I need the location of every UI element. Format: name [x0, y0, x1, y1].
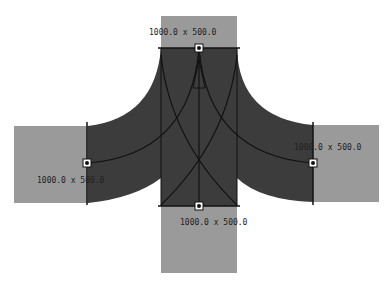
- junction-area[interactable]: [88, 48, 313, 206]
- north-handle[interactable]: [195, 44, 203, 52]
- east-road[interactable]: [313, 125, 379, 202]
- south-road[interactable]: [161, 206, 237, 273]
- east-road-label: 1000.0 x 500.0: [294, 143, 362, 152]
- west-road-label: 1000.0 x 500.0: [37, 176, 105, 185]
- intersection-diagram: 1000.0 x 500.0 1000.0 x 500.0 1000.0 x 5…: [0, 0, 391, 288]
- east-handle[interactable]: [309, 159, 317, 167]
- south-handle[interactable]: [195, 202, 203, 210]
- north-road-label: 1000.0 x 500.0: [149, 28, 217, 37]
- south-road-label: 1000.0 x 500.0: [180, 218, 248, 227]
- west-road[interactable]: [14, 126, 88, 203]
- west-handle[interactable]: [83, 159, 91, 167]
